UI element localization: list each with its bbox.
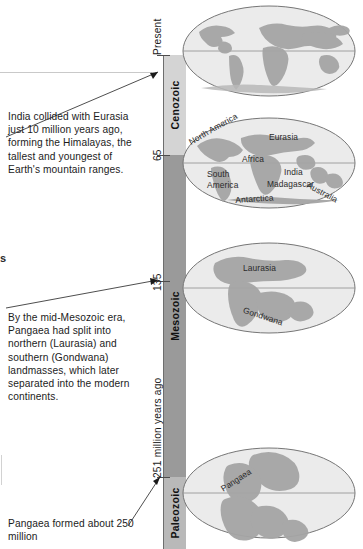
axis-label-135: 135 (152, 273, 163, 291)
axis-label-present: Present (152, 18, 163, 55)
axis-tick-present (157, 55, 170, 56)
geo-label-laurasia: Laurasia (243, 263, 276, 273)
era-label-mesozoic-text: Mesozoic (169, 291, 181, 341)
figure-continental-drift: s Cenozoic Mesozoic Paleozoic Present 65… (0, 0, 363, 549)
globe-paleozoic: Pangaea (181, 441, 357, 545)
era-label-paleozoic-text: Paleozoic (169, 487, 181, 538)
caption-pangaea-formed: Pangaea formed about 250 million (8, 517, 144, 543)
page-tick-fragment (1, 455, 2, 485)
caption-mesozoic-split: By the mid-Mesozoic era, Pangaea had spl… (8, 311, 136, 403)
axis-label-251: 251 million years ago (152, 378, 163, 478)
geo-label-africa: Africa (242, 154, 264, 164)
geo-label-south-america: South America (207, 169, 247, 191)
globe-cenozoic: North America Eurasia Africa South Ameri… (181, 116, 357, 210)
era-label-cenozoic-text: Cenozoic (169, 80, 181, 129)
globe-present-graphic (181, 4, 357, 98)
page-letter-fragment: s (0, 252, 6, 264)
globe-mesozoic: Laurasia Gondwana (181, 241, 357, 335)
timeline-axis (163, 55, 164, 549)
axis-label-65: 65 (152, 149, 163, 161)
globe-paleozoic-graphic (181, 441, 357, 545)
caption-india-collision: India collided with Eurasia just 10 mill… (8, 110, 136, 176)
geo-label-eurasia: Eurasia (269, 132, 298, 142)
page-rule-fragment (0, 72, 152, 73)
geo-label-india: India (284, 167, 303, 177)
globe-present-day (181, 4, 357, 98)
